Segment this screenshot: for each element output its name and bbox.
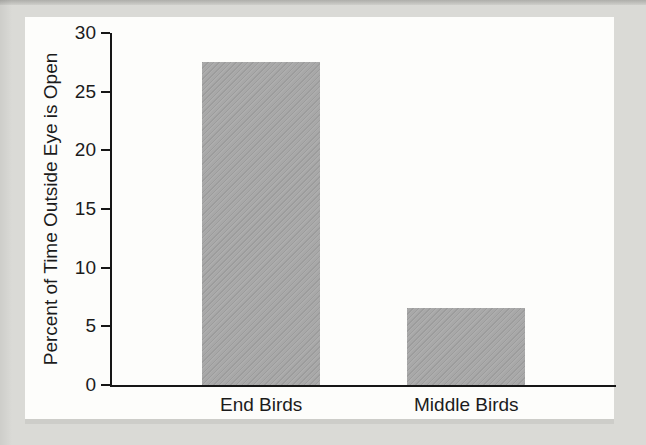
y-tick-label-30: 30 [75, 22, 96, 44]
y-tick-mark-25 [101, 91, 110, 93]
y-tick-label-5: 5 [85, 315, 96, 337]
y-axis-label: Percent of Time Outside Eye is Open [40, 33, 62, 385]
y-tick-label-20: 20 [75, 139, 96, 161]
bar-chart-figure: Percent of Time Outside Eye is Open 0510… [0, 0, 646, 445]
page-top-edge [0, 0, 646, 5]
y-tick-mark-20 [101, 149, 110, 151]
y-tick-mark-5 [101, 325, 110, 327]
y-tick-mark-30 [101, 32, 110, 34]
y-tick-label-15: 15 [75, 198, 96, 220]
y-tick-label-10: 10 [75, 257, 96, 279]
x-category-label-middle-birds: Middle Birds [366, 394, 566, 416]
page-left-shade [0, 0, 12, 445]
y-tick-mark-15 [101, 208, 110, 210]
y-tick-label-0: 0 [85, 374, 96, 396]
chart-panel: Percent of Time Outside Eye is Open 0510… [25, 17, 614, 419]
y-tick-mark-10 [101, 267, 110, 269]
y-tick-label-25: 25 [75, 81, 96, 103]
x-category-label-end-birds: End Birds [161, 394, 361, 416]
bar-middle-birds [407, 308, 525, 385]
bar-end-birds [202, 62, 320, 385]
y-tick-mark-0 [101, 384, 110, 386]
plot-area: 051015202530End BirdsMiddle Birds [110, 33, 616, 387]
